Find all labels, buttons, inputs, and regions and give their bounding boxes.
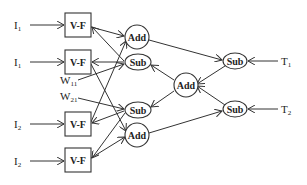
input-label-i1a: I1 [14,19,22,33]
svg-text:Add: Add [128,130,147,141]
network-diagram: I1 I1 I2 I2 V-F V-F V-F V-F W11 W21 Add … [0,0,307,185]
vf-box-1: V-F [65,13,91,37]
sub-node-1: Sub [125,54,151,70]
target-label-t1: T1 [281,55,292,69]
svg-text:Add: Add [177,80,196,91]
input-label-i2b: I2 [14,155,22,169]
vf-connections [78,27,126,158]
svg-text:V-F: V-F [70,119,86,130]
svg-text:V-F: V-F [70,155,86,166]
add-node-2: Add [125,123,149,147]
input-arrows [30,25,64,161]
add-node-1: Add [125,25,149,49]
vf-box-4: V-F [65,148,91,172]
vf-box-3: V-F [65,112,91,136]
add-node-center: Add [174,73,198,97]
svg-text:Sub: Sub [130,57,147,68]
sub-node-2: Sub [125,102,151,118]
svg-text:Add: Add [128,32,147,43]
input-label-i1b: I1 [14,56,22,70]
sub-node-right-2: Sub [223,101,247,117]
svg-text:Sub: Sub [227,104,244,115]
vf-box-2: V-F [65,50,91,74]
weight-label-w11: W11 [60,74,78,88]
svg-text:V-F: V-F [70,20,86,31]
input-label-i2a: I2 [14,118,22,132]
right-connections [149,40,278,133]
target-label-t2: T2 [281,103,292,117]
svg-text:Sub: Sub [130,105,147,116]
sub-node-right-1: Sub [223,53,247,69]
svg-text:V-F: V-F [70,57,86,68]
weight-label-w21: W21 [60,90,78,104]
svg-text:Sub: Sub [227,56,244,67]
